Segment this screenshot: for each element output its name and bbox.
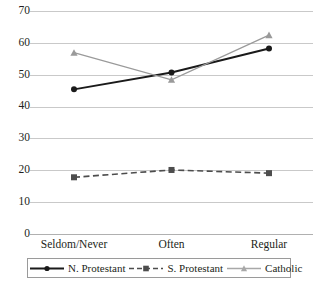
data-point-marker: [266, 46, 272, 52]
legend-label: Catholic: [265, 263, 302, 274]
data-point-marker: [70, 49, 77, 56]
legend-entry-n-protestant: N. Protestant: [28, 263, 127, 274]
plot-area: [30, 11, 313, 234]
y-axis: 70 60 50 40 30 20 10 0: [0, 0, 30, 245]
data-point-marker: [71, 174, 77, 180]
x-tick-label-seldom-never: Seldom/Never: [41, 238, 107, 251]
data-point-marker: [71, 86, 77, 92]
data-point-marker: [265, 32, 272, 39]
legend-label: N. Protestant: [68, 263, 125, 274]
series-line-n-protestant: [74, 49, 269, 90]
y-tick-label: 30: [4, 132, 30, 144]
y-tick-label: 40: [4, 100, 30, 112]
y-tick-label: 10: [4, 196, 30, 208]
data-point-marker: [266, 170, 272, 176]
data-point-marker: [169, 69, 175, 75]
x-tick-label-often: Often: [158, 238, 184, 251]
legend-swatch-line-icon: [30, 263, 64, 274]
legend-entry-catholic: Catholic: [225, 263, 304, 274]
chart-legend: N. Protestant S. Protestant Catholic: [27, 258, 291, 278]
y-tick-label: 70: [4, 5, 30, 17]
gridline-0: [30, 234, 313, 235]
data-point-marker: [169, 167, 175, 173]
series-layer: [30, 11, 313, 234]
x-tick-label-regular: Regular: [251, 238, 287, 251]
legend-swatch-line-icon: [227, 263, 261, 274]
y-tick-label: 60: [4, 37, 30, 49]
legend-swatch-line-icon: [129, 263, 163, 274]
y-tick-label: 20: [4, 164, 30, 176]
y-tick-label: 50: [4, 69, 30, 81]
legend-label: S. Protestant: [167, 263, 223, 274]
line-chart: 70 60 50 40 30 20 10 0 Seldom/Never Ofte…: [0, 0, 321, 285]
y-tick-label: 0: [4, 228, 30, 240]
x-axis: Seldom/Never Often Regular: [30, 238, 313, 256]
legend-entry-s-protestant: S. Protestant: [127, 263, 225, 274]
